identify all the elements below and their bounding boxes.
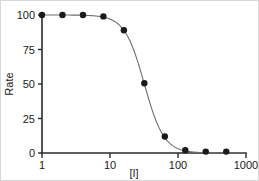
data-point <box>162 133 168 139</box>
x-axis-ticks: 1101001000 <box>39 153 258 171</box>
x-tick-label: 10 <box>104 159 116 171</box>
data-point <box>121 27 127 33</box>
x-axis-title: [I] <box>129 167 138 179</box>
x-tick-label: 100 <box>169 159 187 171</box>
y-tick-label: 25 <box>23 113 35 125</box>
data-point <box>100 13 106 19</box>
y-tick-label: 100 <box>17 9 35 21</box>
data-point <box>59 12 65 18</box>
x-tick-label: 1000 <box>234 159 258 171</box>
chart-figure: 0255075100 1101001000 [I] Rate <box>0 0 259 181</box>
y-axis-title: Rate <box>3 72 15 95</box>
y-tick-label: 0 <box>29 147 35 159</box>
data-point <box>80 12 86 18</box>
chart-plot-area: 0255075100 1101001000 [I] Rate <box>1 1 259 181</box>
y-tick-label: 75 <box>23 44 35 56</box>
data-point <box>182 147 188 153</box>
data-point <box>223 148 229 154</box>
data-point-markers <box>39 12 230 155</box>
y-tick-label: 50 <box>23 78 35 90</box>
data-point <box>39 12 45 18</box>
x-tick-label: 1 <box>39 159 45 171</box>
data-point <box>203 148 209 154</box>
data-point <box>141 80 147 86</box>
y-axis-ticks: 0255075100 <box>17 9 42 159</box>
